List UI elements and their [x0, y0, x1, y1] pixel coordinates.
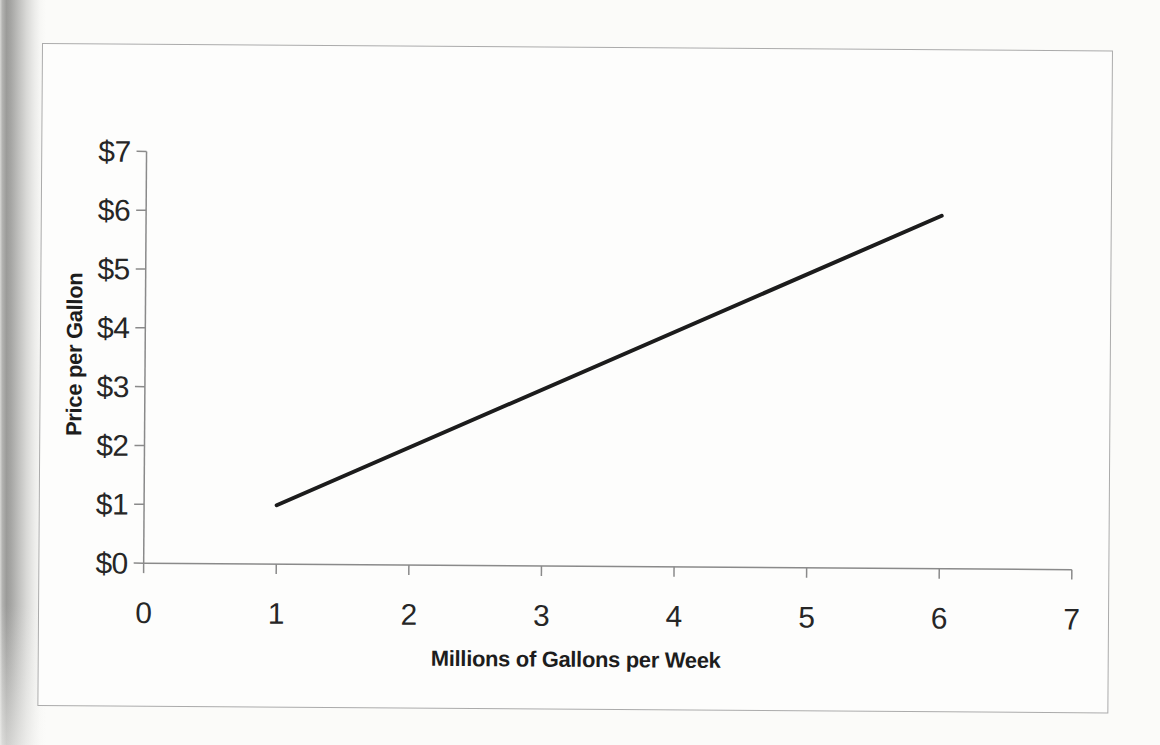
x-axis-title: Millions of Gallons per Week: [431, 646, 722, 673]
x-tick-label: 1: [268, 597, 284, 630]
y-tick-label: $7: [98, 135, 130, 168]
y-tick-label: $5: [97, 252, 129, 285]
supply-line: [277, 211, 942, 510]
y-tick-label: $3: [97, 370, 129, 403]
y-tick-label: $0: [95, 546, 127, 579]
x-tick-label: 3: [533, 599, 549, 632]
x-tick-label: 2: [400, 598, 416, 631]
chart-series: [277, 211, 942, 510]
supply-curve-chart: $0$1$2$3$4$5$6$701234567 Millions of Gal…: [38, 44, 1112, 712]
chart-axes: [134, 151, 1075, 579]
y-axis-line: [144, 151, 147, 573]
y-axis-title: Price per Gallon: [61, 273, 87, 437]
x-tick-label: 5: [798, 601, 814, 634]
y-tick-label: $6: [98, 193, 130, 226]
y-tick-label: $2: [96, 429, 128, 462]
y-tick-label: $1: [96, 487, 128, 520]
scanned-page: $0$1$2$3$4$5$6$701234567 Millions of Gal…: [0, 0, 1160, 745]
x-tick-label: 0: [135, 596, 151, 629]
chart-tick-labels: $0$1$2$3$4$5$6$701234567: [95, 135, 1083, 636]
y-tick-label: $4: [97, 311, 129, 344]
x-axis-line: [144, 563, 1072, 569]
x-tick-label: 7: [1063, 602, 1079, 635]
x-tick-label: 4: [666, 600, 682, 633]
chart-frame: $0$1$2$3$4$5$6$701234567 Millions of Gal…: [37, 43, 1113, 713]
x-tick-label: 6: [931, 601, 947, 634]
